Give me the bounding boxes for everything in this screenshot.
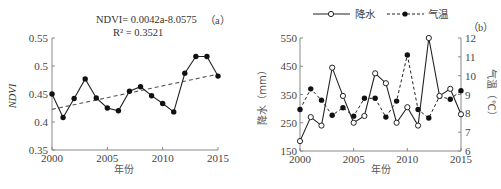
precipitation-point — [319, 123, 324, 128]
temperature-point — [458, 88, 463, 93]
data-point — [193, 54, 198, 59]
data-point — [127, 89, 132, 94]
legend-precip-label: 降水 — [355, 8, 376, 20]
x-tick-label: 2010 — [152, 152, 175, 164]
temperature-point — [448, 97, 453, 102]
right-y-tick-label: 7 — [465, 126, 471, 138]
legend-temp-label: 气温 — [428, 8, 449, 20]
temperature-point — [405, 52, 410, 57]
precipitation-point — [330, 65, 335, 70]
temperature-point — [308, 86, 313, 91]
chart-canvas: 0.350.40.450.50.552000200520102015 NDVI=… — [0, 0, 501, 189]
data-point — [182, 71, 187, 76]
data-point — [105, 105, 110, 110]
data-point — [49, 91, 54, 96]
chart-legend: 降水 气温 — [313, 8, 449, 20]
right-y-tick-label: 11 — [465, 51, 476, 63]
x-tick-label: 2005 — [343, 153, 366, 165]
panel-b-left-axis-title: 降水（mm） — [256, 65, 268, 124]
left-y-tick-label: 250 — [281, 117, 298, 129]
panel-a-x-axis-title: 年份 — [114, 163, 134, 175]
ndvi-line — [52, 56, 218, 117]
panel-b-precipitation-series — [297, 35, 463, 143]
data-point — [71, 96, 76, 101]
data-point — [60, 115, 65, 120]
data-point — [138, 84, 143, 89]
temperature-point — [362, 96, 367, 101]
data-point — [204, 54, 209, 59]
precipitation-point — [437, 93, 442, 98]
panel-b-temperature-series — [297, 52, 463, 120]
precipitation-point — [297, 139, 302, 144]
left-y-tick-label: 350 — [281, 89, 298, 101]
r-squared-label: R² = 0.3521 — [113, 27, 163, 38]
precipitation-point — [415, 123, 420, 128]
right-y-tick-label: 8 — [465, 107, 471, 119]
temperature-point — [383, 114, 388, 119]
precipitation-point — [394, 120, 399, 125]
data-point — [160, 101, 165, 106]
y-tick-label: 0.55 — [29, 32, 49, 44]
panel-a-tag: （a） — [205, 15, 230, 26]
left-y-tick-label: 450 — [281, 60, 298, 72]
data-point — [171, 109, 176, 114]
x-tick-label: 2015 — [207, 152, 230, 164]
data-point — [215, 73, 220, 78]
x-tick-label: 2000 — [41, 152, 64, 164]
regression-equation: NDVI= 0.0042a-8.0575 — [96, 14, 197, 25]
precipitation-point — [458, 112, 463, 117]
x-tick-label: 2015 — [450, 153, 473, 165]
panel-a-ndvi-series — [49, 54, 220, 120]
legend-filled-circle-icon — [402, 11, 407, 16]
data-point — [149, 93, 154, 98]
temperature-point — [340, 105, 345, 110]
data-point — [94, 95, 99, 100]
data-point — [116, 108, 121, 113]
panel-b-x-axis-title: 年份 — [371, 163, 391, 175]
panel-a-axes: 0.350.40.450.50.552000200520102015 — [29, 32, 230, 164]
y-tick-label: 0.4 — [34, 116, 48, 128]
temperature-point — [426, 115, 431, 120]
y-tick-label: 0.5 — [34, 60, 48, 72]
left-y-tick-label: 550 — [281, 32, 298, 44]
temperature-point — [394, 98, 399, 103]
y-tick-label: 0.45 — [29, 88, 49, 100]
x-tick-label: 2010 — [396, 153, 419, 165]
temperature-point — [297, 107, 302, 112]
precipitation-point — [308, 115, 313, 120]
panel-a-trend-line — [52, 74, 218, 109]
precipitation-point — [362, 113, 367, 118]
precipitation-point — [405, 105, 410, 110]
right-y-tick-label: 10 — [465, 70, 477, 82]
data-point — [83, 76, 88, 81]
legend-open-circle-icon — [328, 11, 333, 16]
precipitation-point — [448, 86, 453, 91]
temperature-point — [330, 113, 335, 118]
temperature-point — [372, 96, 377, 101]
panel-b-right-axis-title: 气温（℃） — [486, 69, 498, 120]
x-tick-label: 2005 — [96, 152, 119, 164]
precipitation-point — [426, 35, 431, 40]
precipitation-point — [373, 71, 378, 76]
right-y-tick-label: 12 — [465, 32, 476, 44]
precipitation-point — [383, 81, 388, 86]
precipitation-point — [351, 120, 356, 125]
chart-panel-a: 0.350.40.450.50.552000200520102015 NDVI=… — [7, 14, 230, 175]
trend-line — [52, 74, 218, 109]
chart-panel-b: 降水 气温 （b） 150250350450550678910111220002… — [256, 8, 498, 175]
right-y-tick-label: 9 — [465, 89, 471, 101]
x-tick-label: 2000 — [289, 153, 312, 165]
panel-a-y-axis-title: NDVI — [7, 83, 18, 109]
temperature-point — [319, 97, 324, 102]
precipitation-point — [340, 93, 345, 98]
